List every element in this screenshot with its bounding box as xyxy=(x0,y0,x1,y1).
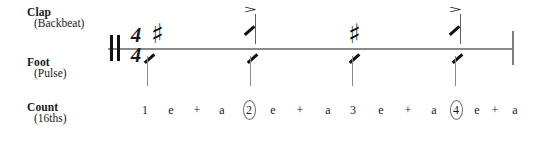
count-syllable: e xyxy=(373,103,389,117)
count-syllable-circled: 2 xyxy=(241,103,257,117)
clap-event-beat-2: > xyxy=(239,0,269,48)
slash-notehead-icon xyxy=(451,33,462,44)
note-stem xyxy=(352,56,354,86)
count-syllable: e xyxy=(265,103,281,117)
row-label-clap: Clap (Backbeat) xyxy=(27,6,84,29)
eighth-rest-icon: ♯ xyxy=(151,20,164,47)
foot-event-beat-1 xyxy=(140,50,170,90)
count-syllable: 1 xyxy=(137,103,153,117)
clap-event-beat-3: ♯ xyxy=(340,0,370,48)
row-label-count-sub: (16ths) xyxy=(27,112,67,124)
clap-event-beat-4: > xyxy=(444,0,474,48)
count-syllable: + xyxy=(189,103,205,117)
row-label-foot: Foot (Pulse) xyxy=(27,56,67,79)
double-barline-stroke-2 xyxy=(117,35,120,61)
foot-event-beat-4 xyxy=(448,50,478,90)
note-stem xyxy=(455,56,457,86)
count-syllable: a xyxy=(320,103,336,117)
foot-event-beat-2 xyxy=(243,50,273,90)
count-syllable: 3 xyxy=(345,103,361,117)
row-label-count: Count (16ths) xyxy=(27,101,67,124)
row-label-foot-sub: (Pulse) xyxy=(27,67,67,79)
rhythm-notation-diagram: Clap (Backbeat) Foot (Pulse) Count (16th… xyxy=(0,0,542,143)
clap-event-beat-1: ♯ xyxy=(143,0,173,48)
slash-notehead-icon xyxy=(246,33,257,44)
end-barline xyxy=(512,31,514,65)
count-syllable: + xyxy=(292,103,308,117)
count-syllable: + xyxy=(400,103,416,117)
count-syllable-circled: 4 xyxy=(448,103,464,117)
double-barline-stroke-1 xyxy=(110,35,113,61)
row-label-clap-sub: (Backbeat) xyxy=(27,17,84,29)
count-syllable: a xyxy=(214,103,230,117)
eighth-rest-icon: ♯ xyxy=(348,20,361,47)
count-syllable: + xyxy=(487,103,503,117)
count-syllable: e xyxy=(163,103,179,117)
count-syllable: e xyxy=(469,103,485,117)
count-syllable: a xyxy=(426,103,442,117)
foot-event-beat-3 xyxy=(345,50,375,90)
note-stem xyxy=(147,56,149,86)
note-stem xyxy=(250,56,252,86)
count-syllable: a xyxy=(507,103,523,117)
